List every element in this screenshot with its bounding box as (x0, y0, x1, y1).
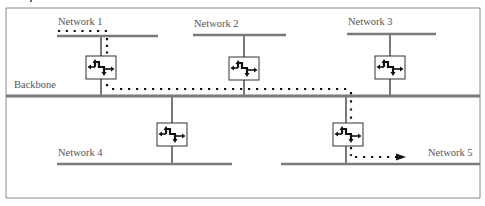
router-4 (157, 123, 187, 146)
router-2 (229, 57, 259, 80)
router-5 (333, 123, 363, 146)
network-3-label: Network 3 (348, 16, 393, 27)
router-1 (86, 56, 116, 79)
network-diagram: Backbone Network 1 Network 2 Network 3 N… (0, 0, 485, 206)
network-2-label: Network 2 (194, 18, 239, 29)
network-5-label: Network 5 (428, 147, 473, 158)
cropped-glyph (30, 0, 32, 2)
arrowhead-icon (396, 154, 406, 161)
network-4-label: Network 4 (58, 147, 103, 158)
backbone-label: Backbone (14, 79, 56, 90)
router-3 (375, 56, 405, 79)
network-1-label: Network 1 (58, 16, 103, 27)
